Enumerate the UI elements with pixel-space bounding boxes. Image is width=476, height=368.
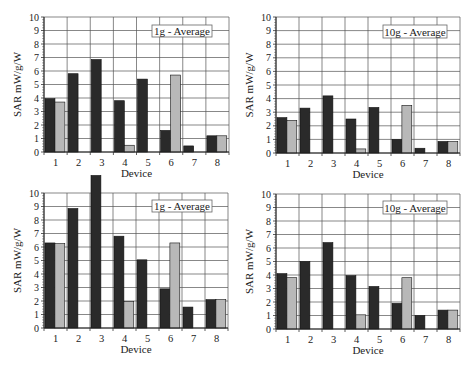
y-tick-label: 10 xyxy=(29,188,39,199)
y-tick-label: 10 xyxy=(261,189,271,200)
bar-dark-device-5 xyxy=(369,286,379,329)
y-tick-label: 3 xyxy=(266,107,271,118)
bar-dark-device-2 xyxy=(68,209,78,328)
y-axis-label: SAR mW/g/W xyxy=(243,52,255,118)
y-tick-label: 5 xyxy=(34,255,39,266)
legend-label: 1g - Average xyxy=(154,25,210,37)
x-axis-label: Device xyxy=(120,343,151,355)
bar-light-device-4 xyxy=(356,149,366,153)
bar-dark-device-1 xyxy=(277,118,287,153)
y-tick-label: 8 xyxy=(266,216,271,227)
bar-dark-device-7 xyxy=(415,148,425,153)
x-tick-label: 1 xyxy=(53,157,58,168)
bar-dark-device-2 xyxy=(300,262,310,330)
y-axis-label: SAR mW/g/W xyxy=(11,227,23,293)
bar-dark-device-3 xyxy=(91,60,101,152)
bar-dark-device-4 xyxy=(346,276,356,329)
x-tick-label: 1 xyxy=(53,333,58,344)
y-tick-label: 8 xyxy=(34,215,39,226)
y-tick-label: 5 xyxy=(266,256,271,267)
y-tick-label: 3 xyxy=(266,283,271,294)
bar-dark-device-4 xyxy=(114,101,124,152)
x-tick-label: 8 xyxy=(446,158,451,169)
bar-dark-device-5 xyxy=(369,107,379,153)
y-tick-label: 1 xyxy=(34,133,39,144)
y-tick-label: 0 xyxy=(34,147,39,158)
x-tick-label: 3 xyxy=(331,334,336,345)
legend-label: 1g - Average xyxy=(154,200,210,212)
bar-dark-device-2 xyxy=(300,108,310,153)
y-tick-label: 2 xyxy=(266,120,271,131)
x-tick-label: 6 xyxy=(168,333,173,344)
bar-dark-device-7 xyxy=(183,307,193,328)
bar-dark-device-2 xyxy=(68,74,78,152)
bar-dark-device-8 xyxy=(438,310,448,329)
y-tick-label: 0 xyxy=(266,148,271,159)
x-axis-label: Device xyxy=(352,344,383,356)
bar-light-device-1 xyxy=(287,120,297,153)
y-tick-label: 3 xyxy=(34,282,39,293)
x-axis-label: Device xyxy=(352,168,383,180)
bar-light-device-6 xyxy=(402,278,412,329)
x-tick-label: 2 xyxy=(308,158,313,169)
x-tick-label: 3 xyxy=(99,333,104,344)
y-tick-label: 7 xyxy=(34,52,39,63)
bar-light-device-1 xyxy=(55,102,65,152)
bar-dark-device-8 xyxy=(207,136,217,152)
x-tick-label: 6 xyxy=(169,157,174,168)
y-tick-label: 8 xyxy=(34,39,39,50)
chart-1g-bottom: 0123456789101g - Average12345678DeviceSA… xyxy=(11,175,228,355)
y-tick-label: 4 xyxy=(34,93,39,104)
bar-dark-device-3 xyxy=(91,175,101,328)
legend-label: 10g - Average xyxy=(384,202,446,214)
y-axis-label: SAR mW/g/W xyxy=(243,228,255,294)
y-tick-label: 7 xyxy=(266,229,271,240)
bar-dark-device-6 xyxy=(160,289,170,328)
x-tick-label: 8 xyxy=(214,333,219,344)
chart-1g-top: 0123456789101g - Average12345678DeviceSA… xyxy=(11,12,229,180)
y-tick-label: 0 xyxy=(266,324,271,335)
chart-10g-bottom: 01234567891010g - Average12345678DeviceS… xyxy=(243,189,460,357)
bar-dark-device-7 xyxy=(415,316,425,330)
bar-light-device-6 xyxy=(170,243,180,328)
y-tick-label: 5 xyxy=(266,80,271,91)
x-tick-label: 8 xyxy=(215,157,220,168)
y-tick-label: 5 xyxy=(34,79,39,90)
y-tick-label: 4 xyxy=(266,93,271,104)
bar-light-device-1 xyxy=(55,244,65,328)
x-tick-label: 3 xyxy=(99,157,104,168)
bar-light-device-8 xyxy=(448,141,458,153)
x-tick-label: 7 xyxy=(423,334,428,345)
x-tick-label: 8 xyxy=(446,334,451,345)
bar-dark-device-4 xyxy=(114,236,124,328)
y-tick-label: 4 xyxy=(34,269,39,280)
x-tick-label: 2 xyxy=(76,157,81,168)
bar-dark-device-1 xyxy=(277,274,287,329)
x-tick-label: 2 xyxy=(76,333,81,344)
x-tick-label: 6 xyxy=(400,334,405,345)
y-tick-label: 6 xyxy=(34,242,39,253)
bar-light-device-6 xyxy=(402,105,412,153)
y-tick-label: 2 xyxy=(34,120,39,131)
y-tick-label: 3 xyxy=(34,106,39,117)
y-tick-label: 6 xyxy=(266,243,271,254)
bar-dark-device-4 xyxy=(346,119,356,153)
legend-label: 10g - Average xyxy=(384,26,446,38)
y-tick-label: 10 xyxy=(29,12,39,23)
bar-light-device-4 xyxy=(124,302,134,328)
bar-light-device-6 xyxy=(171,75,181,152)
x-tick-label: 3 xyxy=(331,158,336,169)
bar-dark-device-6 xyxy=(392,303,402,329)
y-tick-label: 9 xyxy=(34,201,39,212)
bar-dark-device-3 xyxy=(323,96,333,153)
y-tick-label: 9 xyxy=(34,25,39,36)
x-tick-label: 1 xyxy=(285,334,290,345)
y-tick-label: 10 xyxy=(261,12,271,23)
x-tick-label: 7 xyxy=(192,157,197,168)
y-tick-label: 2 xyxy=(34,296,39,307)
bar-dark-device-5 xyxy=(137,260,147,328)
y-tick-label: 9 xyxy=(266,202,271,213)
bar-light-device-4 xyxy=(124,145,134,152)
y-tick-label: 7 xyxy=(266,52,271,63)
y-tick-label: 7 xyxy=(34,228,39,239)
